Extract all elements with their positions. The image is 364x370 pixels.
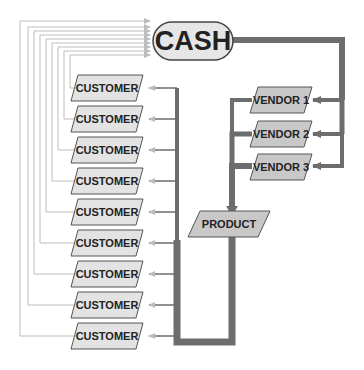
customer-label: CUSTOMER — [76, 299, 139, 311]
vendor-node: VENDOR 3 — [250, 154, 312, 180]
cash-node: CASH — [153, 22, 233, 60]
customer-node: CUSTOMER — [71, 199, 143, 225]
customer-node: CUSTOMER — [71, 137, 143, 163]
customer-node: CUSTOMER — [71, 292, 143, 318]
customer-label: CUSTOMER — [76, 144, 139, 156]
customer-label: CUSTOMER — [76, 82, 139, 94]
customer-node: CUSTOMER — [71, 106, 143, 132]
customer-node: CUSTOMER — [71, 168, 143, 194]
customer-label: CUSTOMER — [76, 206, 139, 218]
customer-label: CUSTOMER — [76, 268, 139, 280]
vendor-node: VENDOR 2 — [250, 121, 312, 147]
customer-label: CUSTOMER — [76, 330, 139, 342]
customer-label: CUSTOMER — [76, 175, 139, 187]
vendor-node: VENDOR 1 — [250, 87, 312, 113]
cash-label: CASH — [155, 26, 232, 56]
vendor-label: VENDOR 3 — [253, 161, 309, 173]
customer-label: CUSTOMER — [76, 113, 139, 125]
customer-node: CUSTOMER — [71, 261, 143, 287]
product-node: PRODUCT — [188, 211, 270, 237]
customer-node: CUSTOMER — [71, 75, 143, 101]
vendors-to-product-lines — [226, 100, 252, 216]
customer-node: CUSTOMER — [71, 230, 143, 256]
cash-flow-diagram: CASH VENDOR 1 VENDOR 2 VENDOR 3 PRODUCT … — [0, 0, 364, 370]
customer-node: CUSTOMER — [71, 323, 143, 349]
customer-label: CUSTOMER — [76, 237, 139, 249]
customer-nodes: CUSTOMER CUSTOMER CUSTOMER CUSTOMER CUST… — [71, 75, 143, 349]
vendor-label: VENDOR 2 — [253, 128, 309, 140]
vendor-label: VENDOR 1 — [253, 94, 309, 106]
product-label: PRODUCT — [202, 218, 257, 230]
